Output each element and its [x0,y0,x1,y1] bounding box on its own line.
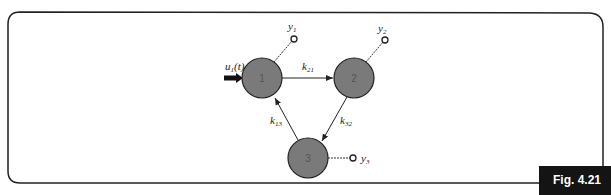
svg-text:2: 2 [351,73,357,84]
input-label: u1(t) [225,60,245,74]
output-probe-y2 [382,37,388,43]
output-line-y2 [366,42,383,62]
svg-text:3: 3 [305,153,311,164]
input-arrow [224,73,243,83]
output-label-y2: y2 [377,22,387,36]
output-probe-y1 [291,36,297,42]
edge-3-1 [275,98,298,140]
edge-label-k32: k32 [340,114,352,128]
output-probe-y3 [350,155,356,161]
figure-label-box: Fig. 4.21 [539,166,611,195]
edge-label-k21: k21 [302,60,314,74]
output-line-y1 [274,41,292,62]
compartment-node-3: 3 [288,138,328,178]
svg-text:1: 1 [259,73,265,84]
compartment-node-2: 2 [334,58,374,98]
figure-label: Fig. 4.21 [553,173,601,187]
output-label-y3: y3 [360,152,370,166]
edge-label-k13: k13 [270,114,282,128]
diagram-canvas: u1(t) k21 k32 k13 y1 y2 y3 1 2 3 [0,0,611,195]
compartment-node-1: 1 [242,58,282,98]
output-label-y1: y1 [287,20,296,34]
